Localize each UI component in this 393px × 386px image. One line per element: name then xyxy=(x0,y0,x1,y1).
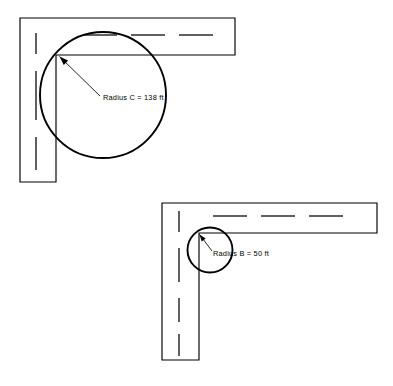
radius-label-c: Radius C = 138 ft xyxy=(103,93,164,102)
arrow-head-icon xyxy=(200,235,206,242)
radius-leader-lower xyxy=(200,235,213,252)
road-outline-lower xyxy=(162,203,377,360)
turning-radius-diagram: Radius C = 138 ft Radius B = 50 ft xyxy=(0,0,393,386)
large-radius-intersection: Radius C = 138 ft xyxy=(20,18,235,182)
road-edge-path xyxy=(162,203,377,360)
radius-leader-upper xyxy=(60,57,101,97)
diagram-canvas: Radius C = 138 ft Radius B = 50 ft xyxy=(0,0,393,386)
radius-label-b: Radius B = 50 ft xyxy=(213,249,269,258)
small-radius-intersection: Radius B = 50 ft xyxy=(162,203,377,360)
